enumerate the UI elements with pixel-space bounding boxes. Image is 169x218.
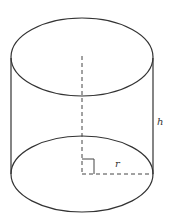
cylinder-diagram: r h [0,0,169,218]
cylinder-figure: r h [0,0,169,218]
height-label: h [157,116,163,127]
radius-label: r [115,158,121,169]
right-angle-marker [82,159,94,174]
